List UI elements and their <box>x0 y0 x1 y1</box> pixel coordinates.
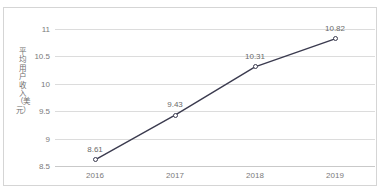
x-axis-tick-label: 2018 <box>225 171 285 180</box>
x-axis-line <box>55 166 375 167</box>
x-axis-tick-label: 2019 <box>305 171 365 180</box>
y-axis-tick-label: 11 <box>10 25 50 34</box>
data-point-marker[interactable] <box>333 36 338 41</box>
x-axis-tick-label: 2016 <box>65 171 125 180</box>
chart-figure: 平均用户收入（美元） 8.599.51010.51120162017201820… <box>0 0 383 194</box>
y-axis-tick-label: 10 <box>10 79 50 88</box>
data-point-label: 9.43 <box>167 100 183 109</box>
clipped-top-text <box>228 0 358 5</box>
y-axis-tick-label: 8.5 <box>10 162 50 171</box>
y-axis-tick-label: 9 <box>10 134 50 143</box>
data-point-label: 8.61 <box>87 145 103 154</box>
data-point-label: 10.31 <box>245 52 265 61</box>
x-axis-tick-label: 2017 <box>145 171 205 180</box>
y-axis-tick-label: 9.5 <box>10 107 50 116</box>
data-point-label: 10.82 <box>325 24 345 33</box>
data-point-marker[interactable] <box>253 64 258 69</box>
y-axis-tick-label: 10.5 <box>10 52 50 61</box>
data-point-marker[interactable] <box>173 113 178 118</box>
plot-area: 8.599.51010.51120162017201820198.619.431… <box>55 29 375 166</box>
